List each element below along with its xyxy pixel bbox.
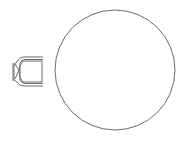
chair-icon <box>13 57 43 86</box>
round-table-shape <box>55 10 175 130</box>
floor-plan-diagram <box>0 0 184 148</box>
